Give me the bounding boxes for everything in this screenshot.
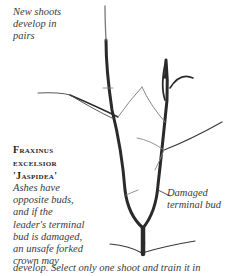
annotation-line: terminal bud (167, 199, 229, 211)
description-line: an unsafe forked (13, 243, 123, 255)
damaged-bud-annotation: Damaged terminal bud (167, 187, 229, 211)
description-line: opposite buds, (13, 194, 123, 206)
heading-line: 'Jaspidea' (13, 169, 57, 182)
new-shoots-annotation: New shoots develop in pairs (13, 6, 73, 42)
annotation-line: Damaged (167, 187, 229, 199)
description-line: leader's terminal (13, 219, 123, 231)
description-line: and if the (13, 206, 123, 218)
description-line: bud is damaged, (13, 231, 123, 243)
description-line: Ashes have (13, 182, 123, 194)
description-continuation: develop. Select only one shoot and train… (13, 262, 201, 274)
heading-line: excelsior (13, 156, 57, 169)
annotation-line: pairs (13, 30, 73, 42)
plant-name-heading: Fraxinus excelsior 'Jaspidea' (13, 143, 57, 182)
heading-line: Fraxinus (13, 143, 57, 156)
description-text: Ashes have opposite buds, and if the lea… (13, 182, 123, 267)
annotation-line: New shoots (13, 6, 73, 18)
annotation-line: develop in (13, 18, 73, 30)
